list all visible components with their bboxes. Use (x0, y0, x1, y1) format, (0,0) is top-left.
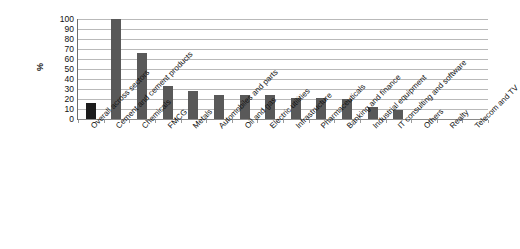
y-tick-label: 70 (50, 45, 74, 54)
y-tick-label: 40 (50, 75, 74, 84)
y-tick-label: 10 (50, 105, 74, 114)
bar (214, 95, 224, 119)
y-tick-label: 50 (50, 65, 74, 74)
bar (188, 91, 198, 119)
y-tick-label: 80 (50, 35, 74, 44)
y-tick-label: 20 (50, 95, 74, 104)
bar (86, 103, 96, 119)
x-tick (78, 120, 79, 123)
y-tick-label: 100 (50, 15, 74, 24)
y-tick-label: 30 (50, 85, 74, 94)
y-tick-label: 0 (50, 115, 74, 124)
y-tick-label: 60 (50, 55, 74, 64)
y-axis-title: % (35, 57, 45, 77)
y-axis-tick-labels: 1009080706050403020100 (50, 19, 74, 119)
y-tick-label: 90 (50, 25, 74, 34)
